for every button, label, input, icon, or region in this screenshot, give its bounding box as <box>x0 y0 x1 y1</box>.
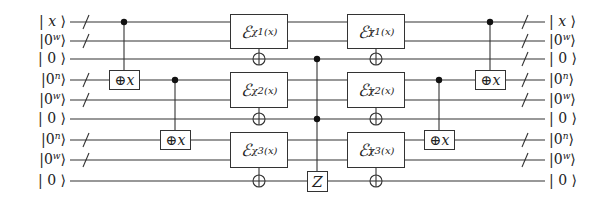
wire-label-right: | 0 ⟩ <box>549 110 577 126</box>
E-chi1-dagger-gate: ℰ†χ1(x) <box>347 14 405 49</box>
gate-subscript: χ2(x) <box>252 85 278 96</box>
wire-label-left: | 0 ⟩ <box>38 50 66 66</box>
gate-symbol: ℰ <box>241 140 251 160</box>
gate-variable: x <box>177 132 185 148</box>
wire-label-left: |0w⟩ <box>39 91 66 107</box>
gate-symbol: ℰ <box>358 22 368 42</box>
wire-label-left: | 0 ⟩ <box>38 172 66 188</box>
wire-label-left: |0n⟩ <box>41 71 66 87</box>
E-chi2-dagger-gate: ℰ†χ2(x) <box>347 72 405 108</box>
wire-label-right: |0w⟩ <box>549 151 576 167</box>
control-lines <box>124 22 490 181</box>
wire-label-right: |0w⟩ <box>549 32 576 48</box>
E-chi3-gate: ℰχ3(x) <box>230 132 288 168</box>
gate-subscript: χ3(x) <box>252 145 278 156</box>
gate-variable: x <box>441 132 449 148</box>
xor-target-icon <box>370 113 382 125</box>
wire-label-right: | 0 ⟩ <box>549 50 577 66</box>
wire-label-right: | 0 ⟩ <box>549 172 577 188</box>
wire-label-left: |0w⟩ <box>39 151 66 167</box>
E-chi1-gate: ℰχ1(x) <box>230 14 288 49</box>
xor-icon: ⊕ <box>430 132 442 148</box>
xor-icon: ⊕ <box>481 72 493 88</box>
control-dot-icon <box>487 19 493 25</box>
gate-symbol: ℰ <box>241 80 251 100</box>
dagger-icon: † <box>369 85 374 96</box>
wire-label-left: | 0 ⟩ <box>38 110 66 126</box>
xor-target-icon <box>253 175 265 187</box>
gate-variable: x <box>492 72 500 88</box>
wire-label-left: |0w⟩ <box>39 32 66 48</box>
dagger-icon: † <box>369 26 374 37</box>
gate-symbol: ℰ <box>358 140 368 160</box>
uncopy-x-2-gate: ⊕x <box>424 130 455 150</box>
copy-x-2-gate: ⊕x <box>160 130 191 150</box>
dagger-icon: † <box>369 145 374 156</box>
control-dot-icon <box>172 77 178 83</box>
wire-label-right: |0n⟩ <box>549 71 574 87</box>
control-dot-icon <box>314 116 320 122</box>
wire-label-left: |0n⟩ <box>41 131 66 147</box>
wire-label-right: |0w⟩ <box>549 91 576 107</box>
control-dot-icon <box>121 19 127 25</box>
xor-target-icon <box>370 175 382 187</box>
control-dot-icon <box>436 77 442 83</box>
uncopy-x-1-gate: ⊕x <box>475 70 506 90</box>
controlled-Z-gate: Z <box>307 171 328 192</box>
xor-icon: ⊕ <box>166 132 178 148</box>
control-dot-icon <box>314 56 320 62</box>
gate-variable: x <box>126 72 134 88</box>
quantum-circuit <box>0 0 611 203</box>
bundle-slashes <box>83 15 528 167</box>
E-chi3-dagger-gate: ℰ†χ3(x) <box>347 132 405 168</box>
xor-target-icon <box>253 113 265 125</box>
control-dots <box>121 19 493 122</box>
E-chi2-gate: ℰχ2(x) <box>230 72 288 108</box>
gate-subscript: χ1(x) <box>252 26 278 37</box>
gate-symbol: ℰ <box>241 22 251 42</box>
xor-icon: ⊕ <box>115 72 127 88</box>
wire-label-right: |0n⟩ <box>549 131 574 147</box>
copy-x-1-gate: ⊕x <box>109 70 140 90</box>
z-label: Z <box>312 173 322 191</box>
xor-target-icon <box>370 53 382 65</box>
wire-label-right: | x ⟩ <box>549 13 576 29</box>
gate-symbol: ℰ <box>358 80 368 100</box>
wires <box>70 22 545 181</box>
wire-label-left: | x ⟩ <box>39 13 66 29</box>
xor-target-icon <box>253 53 265 65</box>
